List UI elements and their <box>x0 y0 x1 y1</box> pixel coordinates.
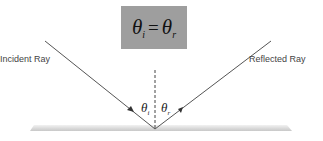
theta-symbol: θ <box>162 15 172 39</box>
subscript-i: i <box>142 29 145 40</box>
reflected-angle-label: θr <box>161 100 170 117</box>
formula-box: θi = θr <box>121 6 187 49</box>
reflected-ray-label: Reflected Ray <box>249 54 306 64</box>
reflected-arrowhead-icon <box>178 107 183 113</box>
reflection-diagram: θi = θr Incident Ray Reflected Ray θi θr <box>0 0 323 141</box>
subscript-r: r <box>172 29 176 40</box>
incident-angle-label: θi <box>141 100 149 117</box>
subscript-i: i <box>147 109 149 117</box>
mirror-surface <box>30 125 292 131</box>
theta-symbol: θ <box>132 15 142 39</box>
equals-sign: = <box>148 17 159 39</box>
incident-ray-label: Incident Ray <box>0 54 50 64</box>
formula-lhs: θi <box>132 15 145 40</box>
incident-ray <box>45 41 155 129</box>
subscript-r: r <box>167 109 170 117</box>
formula-rhs: θr <box>162 15 176 40</box>
